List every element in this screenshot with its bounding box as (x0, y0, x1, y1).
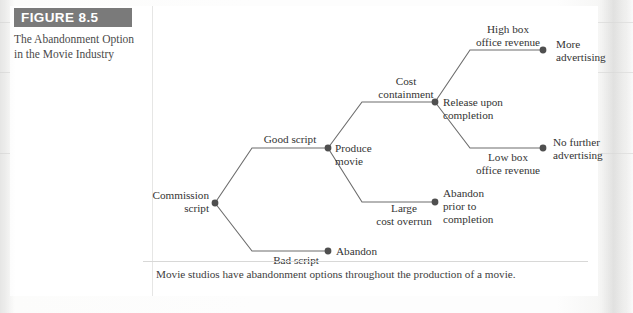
label-large-cost-overrun-line2: cost overrun (376, 215, 432, 227)
label-abandon-prior-line3: completion (443, 213, 494, 225)
page-edge-shadow-left (0, 0, 16, 313)
edge-good-script (215, 148, 328, 203)
figure-screenshot: FIGURE 8.5 The Abandonment Option in the… (0, 0, 633, 313)
label-good-script: Good script (264, 133, 317, 145)
node-more-advertising[interactable] (540, 47, 547, 54)
label-large-cost-overrun-line1: Large (391, 202, 417, 214)
label-bad-script: Bad script (273, 254, 320, 266)
figure-title: The Abandonment Option in the Movie Indu… (14, 32, 136, 61)
label-commission-script-line1: Commission (152, 189, 209, 201)
label-commission-script-line2: script (184, 202, 210, 214)
label-low-box-office-line1: Low box (488, 151, 528, 163)
label-abandon-prior-line1: Abandon (443, 187, 484, 199)
label-release-upon-completion-line1: Release upon (443, 96, 503, 108)
label-more-advertising-line1: More (556, 38, 580, 50)
decision-tree-diagram: Commission script Good script Bad script… (145, 6, 615, 276)
figure-badge: FIGURE 8.5 (14, 8, 132, 27)
label-cost-containment-line1: Cost (396, 75, 417, 87)
label-cost-containment-line2: containment (378, 88, 434, 100)
node-produce-movie[interactable] (325, 145, 332, 152)
label-abandon-prior-line2: prior to (443, 200, 477, 212)
label-release-upon-completion-line2: completion (443, 109, 494, 121)
label-produce-movie-line1: Produce (335, 142, 372, 154)
node-no-further-advertising[interactable] (540, 145, 547, 152)
figure-badge-label: FIGURE 8.5 (14, 10, 99, 25)
label-no-further-advertising-line1: No further (553, 136, 600, 148)
edge-bad-script (215, 203, 328, 251)
edge-high-box-office (435, 50, 543, 102)
figure-bottom-caption: Movie studios have abandonment options t… (156, 268, 516, 280)
node-abandon-prior[interactable] (432, 199, 439, 206)
node-abandon[interactable] (325, 248, 332, 255)
label-abandon: Abandon (336, 245, 377, 257)
label-high-box-office-line2: office revenue (476, 36, 540, 48)
page-edge-shadow-right (597, 0, 633, 313)
label-produce-movie-line2: movie (335, 155, 363, 167)
label-no-further-advertising-line2: advertising (553, 149, 603, 161)
caption-divider (143, 261, 588, 262)
label-low-box-office-line2: office revenue (476, 164, 540, 176)
node-commission-script[interactable] (212, 200, 219, 207)
label-high-box-office-line1: High box (487, 23, 529, 35)
